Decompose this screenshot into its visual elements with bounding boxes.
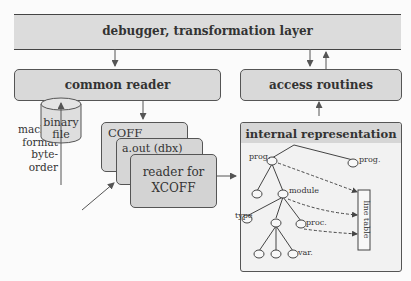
tree-node-icons <box>242 157 358 258</box>
node-label-var: var. <box>298 248 313 257</box>
node-label-proc: proc. <box>306 218 327 227</box>
line-table-label: line table <box>362 200 371 240</box>
binary-file-text: binary file <box>41 117 81 141</box>
binary-file-line: file <box>41 129 81 141</box>
node-label-prog-left: prog. <box>249 152 270 161</box>
node-label-prog-right: prog. <box>359 155 380 164</box>
node-label-module: module <box>289 186 319 195</box>
node-label-type: type <box>235 211 253 220</box>
